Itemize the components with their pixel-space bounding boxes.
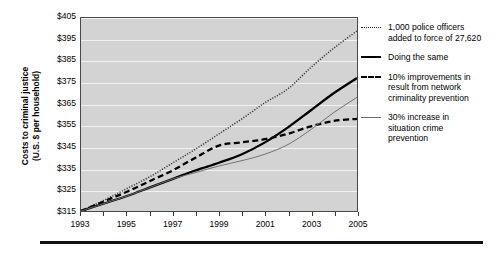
legend-label-line: prevention [388,133,497,144]
legend-label-line: 1,000 police officers [388,22,497,33]
bottom-divider-rule [40,241,483,244]
legend-entry-1[interactable]: 1,000 police officersadded to force of 2… [361,22,497,43]
x-axis-tick [265,212,266,216]
x-axis-tick [219,212,220,216]
y-axis-tick-label: $395 [30,34,76,43]
legend-line-swatch-dashed-icon [361,76,381,78]
y-axis-tick-label: $345 [30,142,76,151]
legend-line-swatch-dotted-icon [361,27,381,28]
legend-label-line: Doing the same [388,52,497,63]
chart-figure: Costs to criminal justice (U.S. $ per ho… [0,0,497,254]
legend-label-line: 30% increase in [388,112,497,123]
legend-label-line: situation crime [388,123,497,134]
x-axis-tick-label: 2003 [292,219,332,229]
y-axis-tick-label: $355 [30,120,76,129]
x-axis-tick [312,212,313,216]
legend-line-swatch-solid-thin-icon [361,117,381,118]
legend-label: 30% increase insituation crimeprevention [388,112,497,144]
x-axis-tick-label: 1993 [60,219,100,229]
legend-label: 10% improvements inresult from networkcr… [388,72,497,104]
y-axis-tick-label: $405 [30,12,76,21]
x-axis-tick [103,212,104,216]
legend-label-line: 10% improvements in [388,72,497,83]
y-axis-tick-label: $335 [30,164,76,173]
x-axis-tick [242,212,243,216]
x-axis-tick-label: 1995 [106,219,146,229]
x-axis-tick [173,212,174,216]
series-line-4 [81,97,357,211]
y-axis-tick-label: $375 [30,77,76,86]
x-axis-tick-label: 1999 [199,219,239,229]
series-lines [81,18,357,211]
legend-entry-2[interactable]: Doing the same [361,52,497,63]
y-axis-tick-label: $315 [30,207,76,216]
x-axis-tick [80,212,81,216]
x-axis-ticks [80,212,358,217]
legend-line-swatch-solid-thick-icon [361,56,381,58]
legend-label-line: criminality prevention [388,93,497,104]
x-axis-tick [196,212,197,216]
x-axis-tick-labels: 1993199519971999200120032005 [0,219,497,233]
y-axis-tick-labels: $315$325$335$345$355$365$375$385$395$405 [28,0,76,254]
legend-label-line: added to force of 27,620 [388,33,497,44]
y-axis-tick-label: $365 [30,99,76,108]
x-axis-tick [289,212,290,216]
x-axis-tick [335,212,336,216]
y-axis-tick-label: $325 [30,185,76,194]
x-axis-tick-label: 1997 [153,219,193,229]
y-axis-tick-label: $385 [30,55,76,64]
chart-legend: 1,000 police officersadded to force of 2… [361,22,497,153]
x-axis-tick [358,212,359,216]
legend-entry-4[interactable]: 30% increase insituation crimeprevention [361,112,497,144]
legend-label: Doing the same [388,52,497,63]
series-line-1 [81,31,357,211]
x-axis-tick [126,212,127,216]
legend-entry-3[interactable]: 10% improvements inresult from networkcr… [361,72,497,104]
legend-label: 1,000 police officersadded to force of 2… [388,22,497,43]
x-axis-tick [150,212,151,216]
legend-label-line: result from network [388,82,497,93]
x-axis-tick-label: 2001 [245,219,285,229]
x-axis-tick-label: 2005 [338,219,378,229]
plot-area [80,17,358,212]
